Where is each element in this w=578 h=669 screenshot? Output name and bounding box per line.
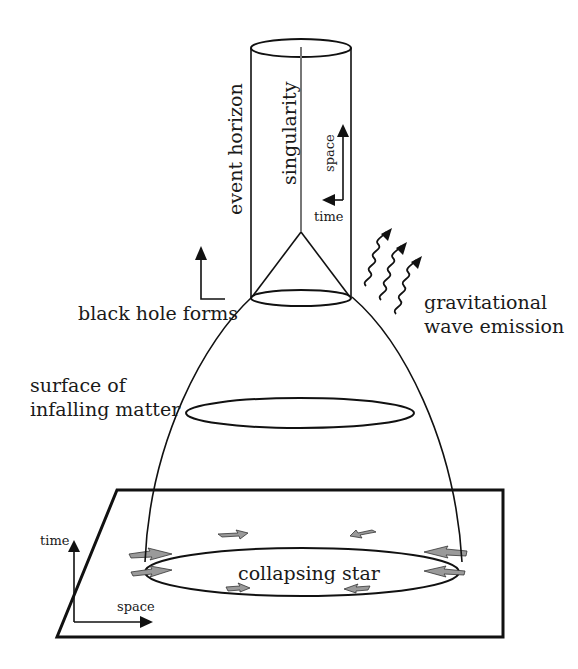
inward-arrow-icon bbox=[350, 530, 376, 538]
arrow-right-icon bbox=[140, 616, 153, 628]
black-hole-forms-label: black hole forms bbox=[78, 302, 238, 324]
inner-space-label: space bbox=[322, 134, 337, 172]
inner-time-label: time bbox=[314, 209, 344, 224]
arrow-up-icon bbox=[68, 540, 80, 552]
infalling-surface-ring bbox=[186, 398, 414, 428]
base-space-label: space bbox=[117, 599, 155, 614]
singularity-label: singularity bbox=[278, 81, 300, 185]
inward-arrow-icon bbox=[218, 530, 248, 539]
base-time-label: time bbox=[40, 533, 70, 548]
wave-arrow-icon bbox=[381, 228, 392, 241]
arrow-up-icon bbox=[337, 124, 349, 137]
infalling-matter-surface bbox=[145, 297, 462, 562]
surface-label-line1: surface of bbox=[30, 374, 128, 396]
arrow-up-icon bbox=[195, 246, 207, 260]
inward-arrow-icon bbox=[226, 583, 250, 592]
inward-arrow-icon bbox=[129, 548, 172, 560]
black-hole-forms-indicator: black hole forms bbox=[78, 246, 238, 324]
inward-arrow-icon bbox=[344, 584, 370, 593]
surface-label-line2: infalling matter bbox=[30, 398, 181, 420]
horizon-formation-ring bbox=[251, 290, 351, 306]
base-axes: time space bbox=[40, 533, 155, 628]
inward-arrow-icon bbox=[131, 566, 172, 577]
collapsing-star-label: collapsing star bbox=[238, 562, 381, 584]
gravitational-wave-label-line1: gravitational bbox=[424, 291, 547, 313]
event-horizon-label: event horizon bbox=[224, 83, 246, 215]
gravitational-waves bbox=[365, 228, 422, 314]
arrow-left-icon bbox=[322, 194, 335, 206]
spacetime-diagram: time space collapsing star bbox=[0, 0, 578, 669]
wave-arrow-icon bbox=[396, 242, 407, 255]
inward-arrow-icon bbox=[424, 566, 465, 577]
wave-arrow-icon bbox=[411, 256, 422, 269]
gravitational-wave-label-line2: wave emission bbox=[424, 315, 564, 337]
trapped-cone bbox=[252, 232, 350, 297]
inner-axes: space time bbox=[314, 124, 349, 224]
